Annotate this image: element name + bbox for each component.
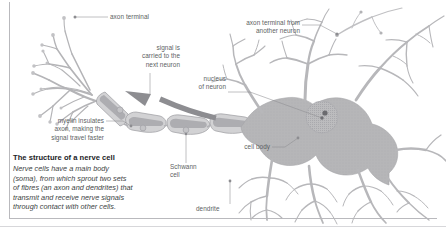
caption-title: The structure of a nerve cell <box>13 153 173 163</box>
label-cell-body: cell body <box>230 143 270 151</box>
label-dendrite: dendrite <box>196 205 220 213</box>
axon-terminal-bulbs <box>31 16 73 131</box>
myelin-sheath-segments <box>96 92 251 134</box>
figure-caption: The structure of a nerve cell Nerve cell… <box>13 153 173 212</box>
nucleolus <box>322 110 327 115</box>
label-schwann-cell: Schwann cell <box>170 163 197 180</box>
neuron-diagram-figure: axon terminal signal is carried to the n… <box>0 0 446 231</box>
label-myelin: myelin insulates axon, making the signal… <box>20 117 104 142</box>
myelin-segment-3 <box>167 115 210 135</box>
soma-cell-body <box>241 97 398 185</box>
myelin-segment-2 <box>126 112 167 132</box>
caption-body: Nerve cells have a main body (soma), fro… <box>13 164 173 212</box>
label-axon-terminal: axon terminal <box>110 13 149 21</box>
label-nucleus: nucleus of neuron <box>178 75 226 92</box>
label-axon-terminal-other: axon terminal from another neuron <box>222 19 300 36</box>
axon-terminal-branches <box>33 18 96 129</box>
incoming-axon-terminal-fibre <box>335 8 402 37</box>
label-signal-carried: signal is carried to the next neuron <box>98 44 180 69</box>
